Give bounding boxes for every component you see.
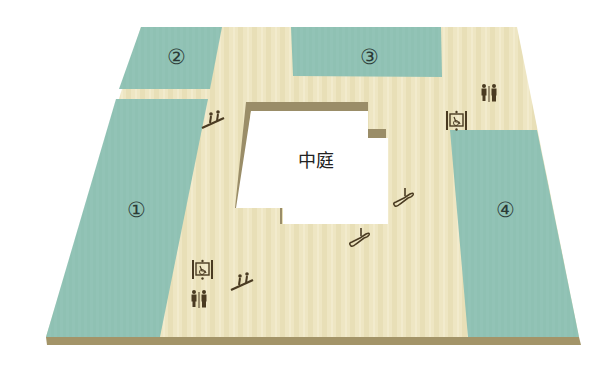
zone-label-3: ③: [360, 45, 379, 69]
atrium-label: 中庭: [298, 150, 334, 171]
restroom-icon: [192, 290, 207, 308]
zone-label-4: ④: [496, 198, 515, 222]
zone-label-2: ②: [167, 45, 186, 69]
restroom-icon: [482, 84, 497, 102]
shop-zone-4: [450, 130, 579, 337]
floor-plan-diagram: ② ③ ① ④ 中庭: [0, 0, 616, 373]
floor-slab-edge: [46, 337, 581, 345]
zone-label-1: ①: [127, 198, 146, 222]
